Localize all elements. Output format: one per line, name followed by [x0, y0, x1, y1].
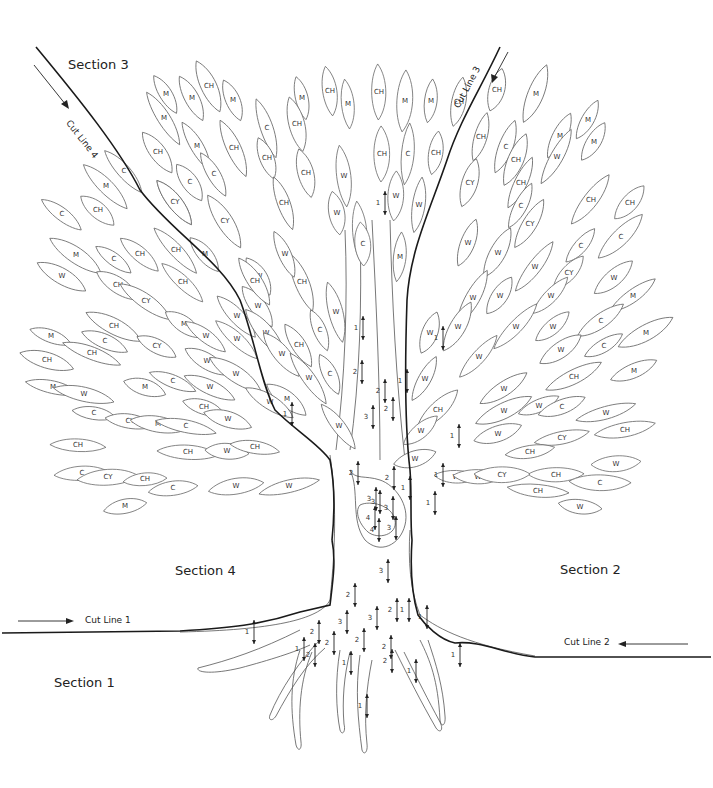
grain-number: 1 [283, 410, 287, 418]
grain-number: 2 [376, 387, 380, 395]
leaf-code-label: W [203, 332, 210, 340]
leaf: C [354, 222, 371, 266]
leaf-code-label: C [318, 326, 323, 334]
cut-line-1-label: Cut Line 1 [85, 615, 131, 625]
leaf-code-label: W [613, 460, 620, 468]
leaf: W [591, 455, 641, 472]
leaf-code-label: W [418, 427, 425, 435]
grain-number: 1 [358, 702, 362, 710]
leaf-code-label: W [501, 407, 508, 415]
leaf-code-label: C [212, 170, 217, 178]
grain-number: 2 [325, 639, 329, 647]
leaf: CH [566, 171, 616, 228]
grain-number: 1 [434, 334, 438, 342]
leaf-code-label: W [455, 323, 462, 331]
leaf-code-label: CH [569, 373, 579, 381]
leaf: CH [215, 117, 252, 180]
leaf-code-label: C [265, 124, 270, 132]
leaf: CH [506, 481, 569, 501]
leaf-code-label: C [579, 242, 584, 250]
leaf-code-label: C [60, 210, 65, 218]
leaf: W [477, 225, 519, 281]
leaf-code-label: C [361, 240, 366, 248]
leaf: W [451, 217, 484, 269]
leaf: M [615, 312, 678, 354]
leaf-code-label: C [171, 484, 176, 492]
leaf-code-label: W [224, 447, 231, 455]
grain-number: 1 [450, 432, 454, 440]
section-4-label: Section 4 [175, 563, 236, 578]
leaf: CH [504, 443, 555, 461]
leaf: M [390, 231, 410, 282]
grain-number: 1 [400, 606, 404, 614]
leaf-code-label: CH [178, 278, 188, 286]
leaf-code-label: W [306, 374, 313, 382]
section-3-label: Section 3 [68, 57, 129, 72]
leaf-code-label: W [495, 430, 502, 438]
leaf-code-label: W [412, 455, 419, 463]
leaf-code-label: CH [199, 403, 209, 411]
leaf-code-label: M [591, 138, 597, 146]
leaf-code-label: C [103, 337, 108, 345]
grain-number: 2 [306, 651, 310, 659]
leaf-code-label: M [189, 94, 195, 102]
grain-number: 1 [295, 645, 299, 653]
leaf-code-label: CH [229, 144, 239, 152]
leaf-code-label: W [225, 415, 232, 423]
leaf-code-label: C [598, 479, 603, 487]
grain-number: 1 [342, 659, 346, 667]
leaf: C [398, 122, 418, 185]
leaf-code-label: CH [492, 86, 502, 94]
leaf-code-label: CH [586, 196, 596, 204]
leaf: M [102, 496, 148, 517]
grain-number: 3 [368, 614, 372, 622]
leaf-code-label: CH [433, 406, 443, 414]
leaf: M [516, 62, 556, 125]
grain-number: 4 [370, 526, 375, 534]
grain-number: 1 [451, 651, 455, 659]
leaf-code-label: W [427, 329, 434, 337]
leaf: CH [320, 65, 339, 116]
leaf: W [557, 496, 603, 518]
leaf-code-label: M [630, 292, 636, 300]
grain-number: 1 [398, 377, 402, 385]
leaf-code-label: CH [140, 475, 150, 483]
leaf-code-label: M [163, 90, 169, 98]
leaf-code-label: CH [301, 169, 311, 177]
leaf: W [407, 176, 430, 233]
leaf-code-label: CH [135, 250, 145, 258]
leaf: CH [293, 147, 319, 199]
leaf-code-label: W [233, 370, 240, 378]
leaf-code-label: M [631, 367, 637, 375]
leaf-code-label: W [336, 422, 343, 430]
leaf-code-label: M [161, 114, 167, 122]
leaf-code-label: CH [93, 206, 103, 214]
leaf-code-label: M [402, 97, 408, 105]
leaf-code-label: CY [152, 342, 162, 350]
leaf: CH [543, 357, 605, 396]
leaf-code-label: C [171, 377, 176, 385]
leaf: W [317, 400, 360, 453]
leaf-code-label: W [334, 209, 341, 217]
leaf-code-label: C [188, 178, 193, 186]
grain-number: 3 [384, 504, 388, 512]
leaf-code-label: CH [73, 441, 83, 449]
leaf-code-label: C [92, 409, 97, 417]
grain-number: 3 [387, 524, 391, 532]
leaf: W [207, 475, 264, 497]
leaf-code-label: M [122, 502, 128, 510]
tree-pattern-diagram: MMCHMMCHMCHCCCYCYMCHCHCCHCHCHWWMCHMMCHCH… [0, 0, 713, 788]
leaf: CY [454, 157, 485, 209]
leaf: W [392, 446, 439, 472]
leaf-group: MMCHMMCHMCHCCCYCYMCHCHCCHCHCHWWMCHMMCHCH… [18, 57, 677, 517]
leaf-code-label: W [416, 201, 423, 209]
leaf-code-label: M [643, 329, 649, 337]
leaf-code-label: CH [250, 277, 260, 285]
leaf-code-label: W [233, 482, 240, 490]
leaf-code-label: W [558, 346, 565, 354]
leaf-code-label: W [495, 249, 502, 257]
leaf-code-label: W [548, 292, 555, 300]
leaf-code-label: M [73, 251, 79, 259]
grain-number: 2 [382, 643, 386, 651]
leaf-code-label: CH [262, 154, 272, 162]
